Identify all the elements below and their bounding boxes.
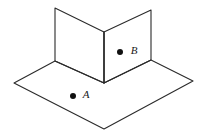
figure-canvas: A B [0,0,206,138]
point-a-dot [70,93,76,99]
geometry-figure: A B [0,0,206,138]
point-a-label: A [82,88,90,100]
point-b-label: B [131,44,138,56]
point-b-dot [117,49,123,55]
